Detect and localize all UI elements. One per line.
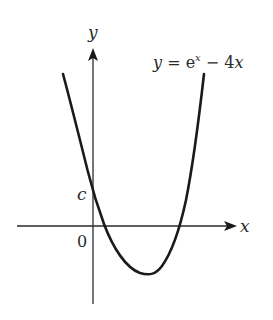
equation-rhs-x: x xyxy=(235,53,244,72)
x-axis-label: x xyxy=(240,216,250,236)
equation-eq: = e xyxy=(162,53,195,72)
equation-rhs: − 4 xyxy=(201,53,235,72)
c-intercept-label: c xyxy=(77,184,87,204)
graph-canvas: y x c 0 y = ex − 4x xyxy=(0,0,273,320)
y-axis-label: y xyxy=(87,22,98,42)
origin-label: 0 xyxy=(77,232,87,251)
equation-label: y = ex − 4x xyxy=(152,52,244,72)
